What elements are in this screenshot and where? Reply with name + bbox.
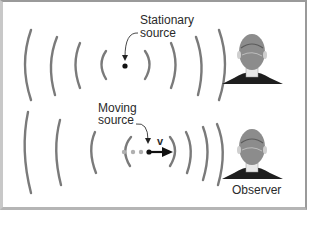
moving-source-trail bbox=[122, 150, 143, 154]
observer-figure-bottom bbox=[222, 129, 283, 179]
wavefront-right-1 bbox=[145, 51, 150, 79]
velocity-arrow-head bbox=[162, 147, 173, 157]
velocity-label: v bbox=[157, 135, 163, 148]
stationary-source-dot bbox=[122, 63, 127, 68]
wavefront-right-3 bbox=[196, 37, 202, 95]
wavefront-left-3 bbox=[51, 37, 57, 95]
observer-head-icon bbox=[239, 129, 265, 165]
moving-pointer-arrowhead bbox=[145, 138, 151, 144]
wavefront-right-4 bbox=[219, 30, 225, 100]
wavefront-left-2 bbox=[76, 43, 81, 88]
observer-label: Observer bbox=[232, 184, 281, 197]
observer-head-icon bbox=[239, 34, 265, 70]
moving-wavefront-left-2 bbox=[91, 132, 96, 173]
stationary-pointer-arrowhead bbox=[122, 55, 128, 61]
moving-wavefront-right-2 bbox=[186, 132, 191, 173]
stationary-source-label-line2: source bbox=[140, 27, 176, 40]
wavefront-right-2 bbox=[171, 43, 176, 88]
moving-wavefront-right-3 bbox=[203, 127, 208, 180]
observer-figure-top bbox=[222, 34, 283, 84]
moving-pointer-line bbox=[136, 124, 148, 140]
moving-wavefront-left-4 bbox=[25, 112, 31, 193]
wavefront-left-4 bbox=[25, 30, 31, 100]
moving-source-label-line2: source bbox=[98, 114, 134, 127]
stationary-pointer-line bbox=[125, 33, 138, 57]
wavefront-left-1 bbox=[102, 51, 107, 79]
moving-wavefront-right-4 bbox=[217, 124, 223, 185]
moving-wavefront-left-3 bbox=[56, 120, 61, 185]
